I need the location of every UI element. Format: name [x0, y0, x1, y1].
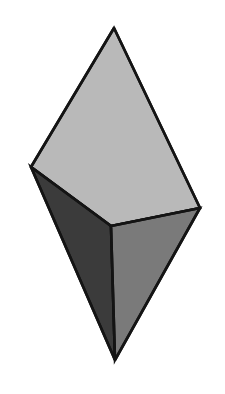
figure-canvas [0, 0, 225, 394]
polyhedron-figure [0, 0, 225, 394]
